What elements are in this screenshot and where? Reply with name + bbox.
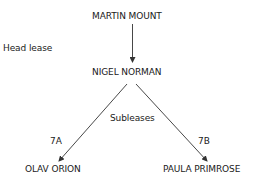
node-olav-orion: OLAV ORION (25, 164, 81, 175)
node-martin-mount: MARTIN MOUNT (92, 11, 162, 22)
edge-label-7a: 7A (50, 136, 62, 147)
lease-diagram: MARTIN MOUNT Head lease NIGEL NORMAN Sub… (0, 0, 258, 189)
edge-label-7b: 7B (198, 136, 210, 147)
node-nigel-norman: NIGEL NORMAN (92, 67, 161, 78)
node-paula-primrose: PAULA PRIMROSE (163, 164, 240, 175)
head-lease-label: Head lease (3, 43, 52, 54)
subleases-label: Subleases (110, 113, 155, 124)
arrows-layer (0, 0, 258, 189)
